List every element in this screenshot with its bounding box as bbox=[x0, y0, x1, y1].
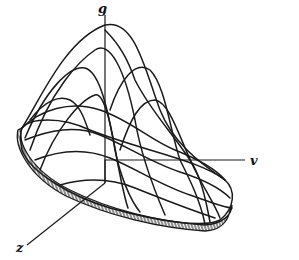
surface-outline bbox=[22, 24, 225, 180]
grid-curve bbox=[105, 30, 210, 222]
v-axis-label: v bbox=[250, 153, 258, 168]
g-axis-label: g bbox=[98, 1, 107, 16]
surface-diagram: g v z bbox=[0, 0, 299, 260]
z-axis-label: z bbox=[15, 240, 24, 255]
